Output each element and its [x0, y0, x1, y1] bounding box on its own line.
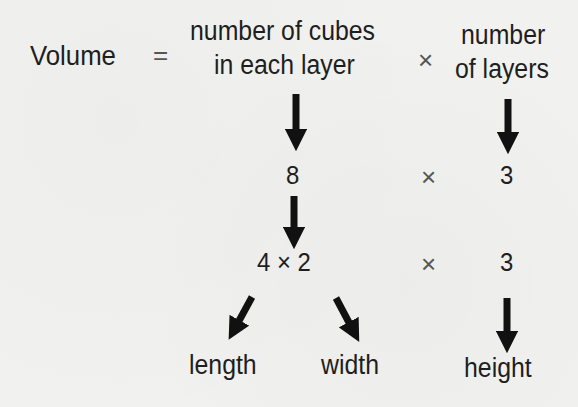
volume-diagram: Volume = number of cubes in each layer ×…: [0, 0, 578, 407]
arrow-down-right-icon: [336, 298, 354, 332]
arrow-down-left-icon: [234, 297, 252, 330]
